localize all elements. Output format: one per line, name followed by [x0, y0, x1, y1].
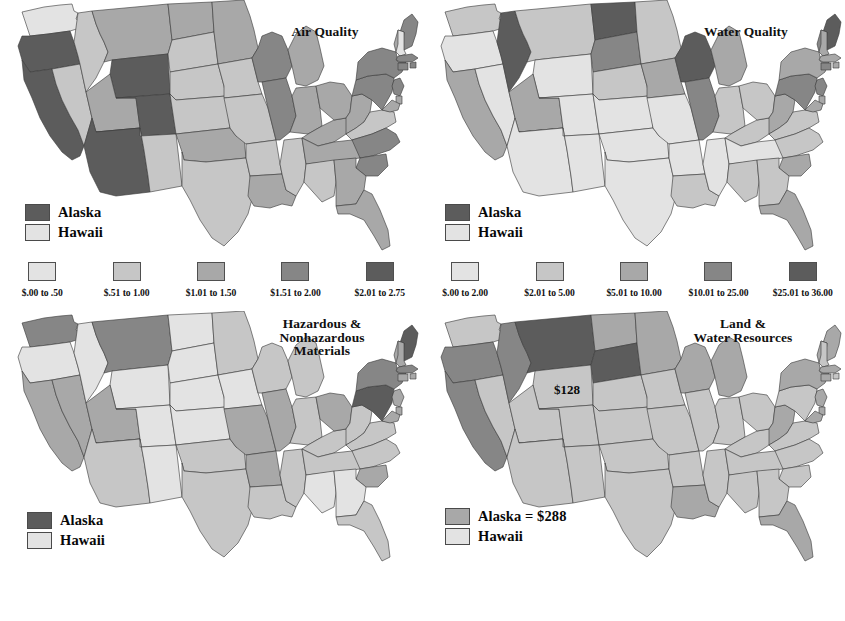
legend-item: $10.01 to 25.00: [676, 262, 760, 298]
legend-item: $1.51 to 2.00: [253, 262, 337, 298]
hawaii-label: Hawaii: [60, 532, 105, 549]
hawaii-key-row: Hawaii: [445, 223, 523, 242]
state-wi: [252, 32, 292, 82]
hawaii-swatch: [27, 532, 52, 549]
state-ri: [410, 373, 416, 379]
alaska-label: Alaska: [58, 204, 101, 221]
state-al: [727, 471, 759, 513]
state-ar: [246, 451, 282, 487]
state-ar: [669, 451, 705, 487]
map-title-hazardous: Hazardous & Nonhazardous Materials: [242, 317, 402, 358]
map-title-water: Water Quality: [671, 25, 821, 39]
legend-air: $.00 to .50$.51 to 1.00$1.01 to 1.50$1.5…: [0, 262, 422, 298]
hawaii-key-row: Hawaii: [27, 531, 105, 550]
map-panel-hazardous: Hazardous & Nonhazardous MaterialsAlaska…: [0, 311, 422, 621]
state-nj: [392, 78, 404, 96]
alaska-label: Alaska: [478, 204, 521, 221]
legend-caption-2: $.51 to 1.00: [104, 287, 150, 298]
state-nj: [392, 389, 404, 407]
state-wi: [675, 343, 715, 393]
alaska-key-row: Alaska = $288: [445, 507, 567, 526]
hawaii-label: Hawaii: [478, 528, 523, 545]
legend-caption-1: $.00 to .50: [22, 287, 63, 298]
state-ct: [821, 63, 831, 70]
legend-caption-3: $1.01 to 1.50: [186, 287, 237, 298]
alaska-hawaii-key-air: AlaskaHawaii: [25, 203, 103, 243]
hawaii-key-row: Hawaii: [25, 223, 103, 242]
legend-swatch-3: [197, 262, 225, 281]
hawaii-swatch: [445, 224, 470, 241]
state-wa: [445, 315, 505, 347]
alaska-key-row: Alaska: [27, 511, 105, 530]
state-wy: [533, 54, 593, 98]
state-nj: [815, 78, 827, 96]
legend-water: $.00 to 2.00$2.01 to 5.00$5.01 to 10.00$…: [423, 262, 845, 298]
state-wa: [22, 315, 82, 347]
alaska-key-row: Alaska: [25, 203, 103, 222]
legend-caption-1: $.00 to 2.00: [442, 287, 488, 298]
legend-item: $2.01 to 2.75: [338, 262, 422, 298]
map-panel-water: Water QualityAlaskaHawaii$.00 to 2.00$2.…: [423, 0, 845, 310]
alaska-hawaii-key-water: AlaskaHawaii: [445, 203, 523, 243]
state-tx: [182, 152, 254, 246]
hawaii-swatch: [25, 224, 50, 241]
state-mi: [711, 337, 747, 397]
alaska-swatch: [25, 204, 50, 221]
state-ct: [398, 63, 408, 70]
state-oh: [739, 393, 775, 431]
legend-swatch-2: [113, 262, 141, 281]
legend-caption-4: $1.51 to 2.00: [270, 287, 321, 298]
legend-item: $1.01 to 1.50: [169, 262, 253, 298]
legend-item: $25.01 to 36.00: [761, 262, 845, 298]
state-ks: [593, 405, 653, 445]
state-ks: [170, 405, 230, 445]
legend-item: $.51 to 1.00: [84, 262, 168, 298]
legend-swatch-3: [620, 262, 648, 281]
map-title-air: Air Quality: [250, 25, 400, 39]
legend-swatch-1: [451, 262, 479, 281]
state-wy: [110, 365, 170, 409]
state-al: [727, 160, 759, 202]
state-al: [304, 160, 336, 202]
state-ks: [170, 94, 230, 134]
alaska-swatch: [445, 508, 470, 525]
state-ri: [410, 62, 416, 68]
state-tx: [605, 463, 677, 557]
state-ks: [593, 94, 653, 134]
legend-swatch-4: [704, 262, 732, 281]
state-ct: [398, 374, 408, 381]
legend-swatch-1: [28, 262, 56, 281]
state-oh: [316, 393, 352, 431]
hawaii-swatch: [445, 528, 470, 545]
alaska-key-row: Alaska: [445, 203, 523, 222]
state-ar: [246, 140, 282, 176]
four-panel-choropleth-figure: Air QualityAlaskaHawaii$.00 to .50$.51 t…: [0, 0, 845, 621]
alaska-label: Alaska = $288: [478, 508, 567, 525]
state-ar: [669, 140, 705, 176]
state-wa: [22, 4, 82, 36]
legend-item: $.00 to 2.00: [423, 262, 507, 298]
state-ri: [833, 62, 839, 68]
alaska-hawaii-key-hazardous: AlaskaHawaii: [27, 511, 105, 551]
hawaii-label: Hawaii: [58, 224, 103, 241]
state-wy: [110, 54, 170, 98]
state-ri: [833, 373, 839, 379]
legend-item: $2.01 to 5.00: [507, 262, 591, 298]
legend-item: $.00 to .50: [0, 262, 84, 298]
map-panel-land-water: $128Land & Water ResourcesAlaska = $288H…: [423, 311, 845, 621]
state-oh: [739, 82, 775, 120]
state-ct: [821, 374, 831, 381]
state-al: [304, 471, 336, 513]
legend-caption-5: $2.01 to 2.75: [355, 287, 406, 298]
legend-caption-2: $2.01 to 5.00: [524, 287, 575, 298]
state-wa: [445, 4, 505, 36]
legend-caption-5: $25.01 to 36.00: [773, 287, 833, 298]
state-value-label-wy: $128: [554, 382, 580, 398]
legend-caption-4: $10.01 to 25.00: [688, 287, 748, 298]
map-panel-air: Air QualityAlaskaHawaii$.00 to .50$.51 t…: [0, 0, 422, 310]
state-tx: [605, 152, 677, 246]
alaska-hawaii-key-land-water: Alaska = $288Hawaii: [445, 507, 567, 547]
legend-swatch-4: [281, 262, 309, 281]
legend-caption-3: $5.01 to 10.00: [606, 287, 661, 298]
legend-swatch-2: [536, 262, 564, 281]
